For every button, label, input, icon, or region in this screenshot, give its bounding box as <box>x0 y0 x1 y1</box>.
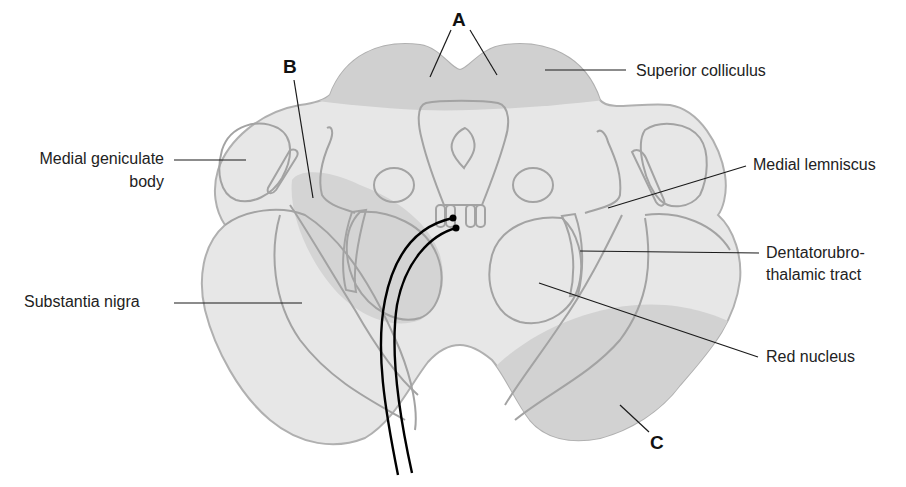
electrode-contact-1 <box>450 215 457 222</box>
label-substantia-nigra: Substantia nigra <box>24 293 140 310</box>
label-red-nucleus: Red nucleus <box>766 348 855 365</box>
label-medial-geniculate-line2: body <box>129 173 164 190</box>
marker-c: C <box>650 432 664 453</box>
label-superior-colliculus: Superior colliculus <box>636 62 766 79</box>
label-dentatorubro-line2: thalamic tract <box>766 266 862 283</box>
electrode-contact-2 <box>453 225 460 232</box>
marker-a: A <box>452 9 466 30</box>
label-medial-geniculate-line1: Medial geniculate <box>39 150 164 167</box>
label-dentatorubro-line1: Dentatorubro- <box>766 244 865 261</box>
midbrain-diagram: A B C Superior colliculus Medial genicul… <box>0 0 906 487</box>
marker-b: B <box>283 56 297 77</box>
label-medial-lemniscus: Medial lemniscus <box>753 156 876 173</box>
